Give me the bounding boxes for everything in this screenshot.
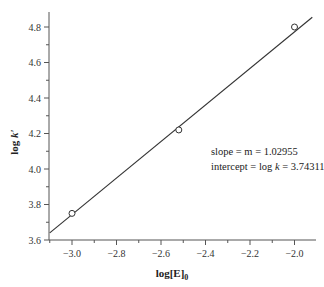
data-point <box>69 210 75 216</box>
data-point <box>292 24 298 30</box>
x-tick-label: −2.8 <box>107 248 125 259</box>
x-axis-title: log[E]0 <box>156 267 189 282</box>
data-points <box>69 24 298 216</box>
y-tick-label: 3.6 <box>29 235 42 246</box>
y-tick-label: 4.0 <box>29 164 42 175</box>
regression-line <box>50 17 313 233</box>
x-tick-label: −2.2 <box>241 248 259 259</box>
chart: −3.0−2.8−2.6−2.4−2.2−2.03.63.84.04.24.44… <box>0 0 324 287</box>
annotation-intercept: intercept = log k = 3.74311 <box>211 161 324 172</box>
data-point <box>176 127 182 133</box>
y-tick-label: 4.6 <box>29 57 42 68</box>
y-tick-label: 4.2 <box>29 128 42 139</box>
y-tick-label: 4.8 <box>29 22 42 33</box>
y-tick-label: 4.4 <box>29 93 42 104</box>
y-axis-title: log k′ <box>8 129 20 154</box>
fit-line <box>50 17 313 233</box>
x-tick-label: −3.0 <box>63 248 81 259</box>
x-tick-label: −2.6 <box>152 248 170 259</box>
x-tick-label: −2.4 <box>196 248 214 259</box>
annotation-slope: slope = m = 1.02955 <box>211 146 298 157</box>
y-tick-label: 3.8 <box>29 199 42 210</box>
x-tick-label: −2.0 <box>285 248 303 259</box>
